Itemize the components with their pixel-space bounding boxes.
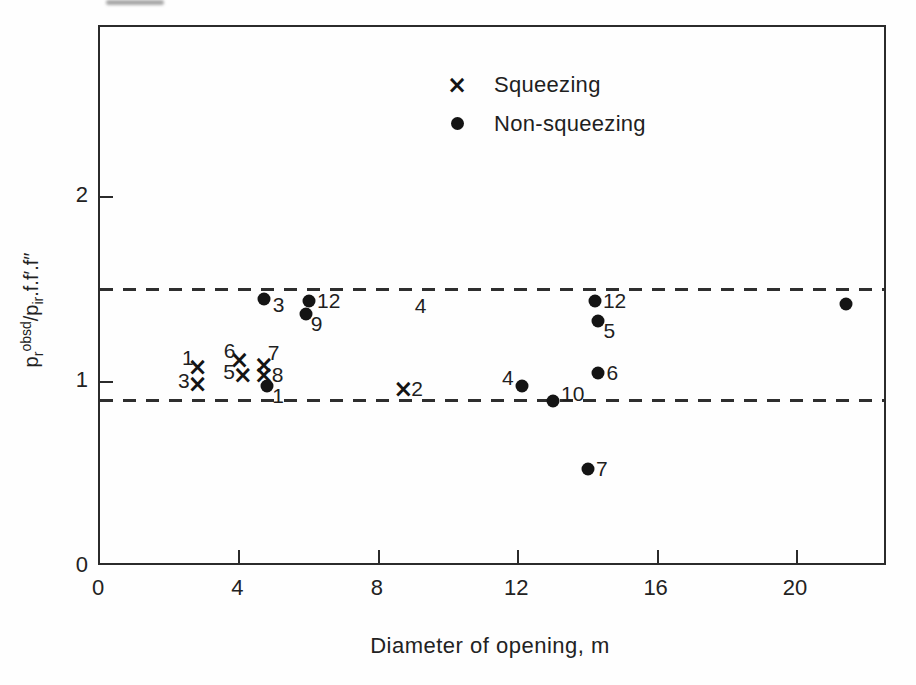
- data-point-dot: [257, 292, 270, 305]
- x-axis-tick-label: 4: [231, 575, 243, 601]
- legend: × Squeezing Non-squeezing: [442, 65, 646, 143]
- data-point-dot: [303, 294, 316, 307]
- data-point-label: 4: [502, 366, 514, 387]
- data-point-x: ×: [188, 372, 208, 396]
- x-axis-title: Diameter of opening, m: [370, 633, 610, 659]
- data-point-label: 5: [603, 320, 615, 341]
- dot-marker-icon: [451, 117, 464, 130]
- x-axis-tick: [238, 550, 240, 563]
- x-axis-tick: [657, 550, 659, 563]
- data-point-label: 3: [178, 369, 190, 390]
- data-point-dot: [581, 462, 594, 475]
- y-axis-tick-label: 0: [76, 552, 88, 578]
- y-axis-tick-label: 1: [76, 367, 88, 393]
- data-point-label: 9: [311, 312, 323, 333]
- x-marker-icon: ×: [447, 73, 467, 97]
- data-point-label: 6: [606, 361, 618, 382]
- data-point-label: 7: [596, 457, 608, 478]
- legend-item-non-squeezing: Non-squeezing: [442, 104, 646, 143]
- data-point-dot: [515, 379, 528, 392]
- x-axis-tick: [378, 550, 380, 563]
- data-point-label: 1: [182, 347, 194, 368]
- data-point-dot: [592, 366, 605, 379]
- y-axis-tick: [100, 196, 113, 198]
- data-point-label: 3: [273, 293, 285, 314]
- data-point-label: 4: [415, 294, 427, 315]
- data-point-dot: [839, 298, 852, 311]
- legend-label-non-squeezing: Non-squeezing: [494, 111, 646, 137]
- data-point-x: ×: [233, 363, 253, 387]
- data-point-dot: [588, 294, 601, 307]
- x-axis-tick-label: 16: [643, 575, 667, 601]
- scan-artifact: [106, 0, 164, 5]
- x-axis-tick-label: 12: [504, 575, 528, 601]
- legend-item-squeezing: × Squeezing: [442, 65, 646, 104]
- x-axis-tick-label: 0: [92, 575, 104, 601]
- data-point-label: 2: [411, 378, 423, 399]
- data-point-label: 8: [272, 363, 284, 384]
- data-point-label: 6: [224, 339, 236, 360]
- data-point-label: 12: [603, 289, 626, 310]
- data-point-label: 12: [317, 289, 340, 310]
- y-axis-tick-label: 2: [76, 182, 88, 208]
- data-point-label: 5: [223, 360, 235, 381]
- legend-label-squeezing: Squeezing: [494, 72, 601, 98]
- x-axis-tick-label: 8: [371, 575, 383, 601]
- scatter-plot-figure: × Squeezing Non-squeezing ×1×3×6×5×7×8×2…: [0, 0, 916, 685]
- dashed-reference-line: [100, 399, 884, 402]
- x-axis-tick: [517, 550, 519, 563]
- x-axis-tick: [796, 550, 798, 563]
- data-point-label: 10: [561, 382, 584, 403]
- dashed-reference-line: [100, 288, 884, 291]
- plot-area: × Squeezing Non-squeezing ×1×3×6×5×7×8×2…: [98, 25, 886, 565]
- y-axis-tick: [100, 381, 113, 383]
- x-axis-tick-label: 20: [783, 575, 807, 601]
- data-point-label: 1: [272, 384, 284, 405]
- data-point-dot: [547, 394, 560, 407]
